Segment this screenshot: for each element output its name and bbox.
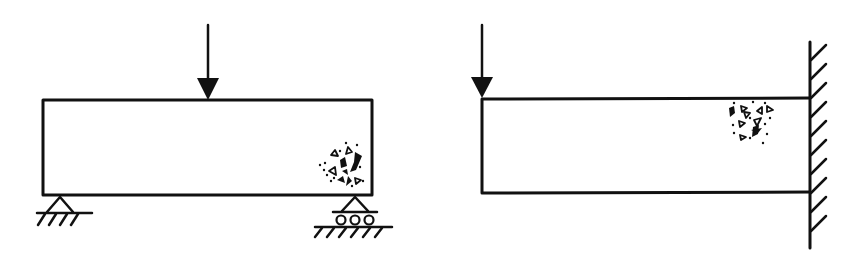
point-load-arrow-icon: [197, 25, 219, 100]
pin-support-icon: [37, 197, 92, 225]
simply-supported-beam: [37, 25, 392, 237]
cantilever-beam: [471, 25, 826, 248]
roller-support-icon: [315, 197, 392, 237]
aggregate-damage-icon: [319, 142, 364, 187]
beam-body: [43, 100, 372, 195]
fixed-wall-icon: [810, 42, 826, 248]
point-load-arrow-icon: [471, 25, 493, 98]
aggregate-damage-icon: [729, 101, 773, 144]
diagram-canvas: [0, 0, 866, 266]
beam-diagrams: [0, 0, 866, 266]
